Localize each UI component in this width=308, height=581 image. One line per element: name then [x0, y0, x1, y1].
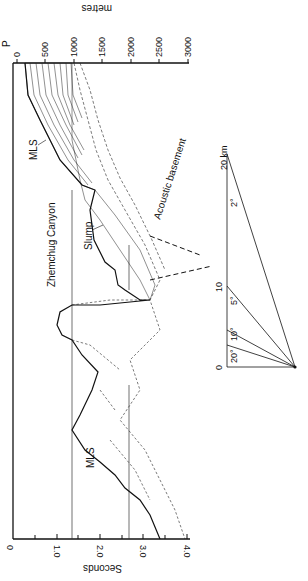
metres-axis-title: metres [81, 3, 112, 14]
basement-chaotic-zone [74, 63, 165, 300]
svg-text:3.0: 3.0 [138, 545, 148, 558]
upper-slope-sediments [25, 63, 155, 300]
seconds-tick-labels: 0 1.0 2.0 3.0 4.0 [5, 545, 192, 558]
slump-label: Slump [83, 221, 94, 250]
svg-text:20 km: 20 km [219, 145, 229, 170]
svg-text:2°: 2° [229, 198, 239, 207]
metres-tick-labels: 0 500 1000 1500 2000 2500 3000 [12, 37, 193, 57]
svg-text:5°: 5° [229, 296, 239, 305]
strata-lines [30, 63, 92, 185]
canyon-label: Zhemchug Canyon [46, 203, 57, 288]
svg-text:10: 10 [214, 282, 224, 292]
svg-text:3000: 3000 [183, 37, 193, 57]
lower-slope-sediments [72, 300, 185, 539]
svg-text:0: 0 [5, 545, 15, 550]
mls-lower-label: MLS [85, 447, 96, 468]
svg-text:2500: 2500 [154, 37, 164, 57]
svg-text:1.0: 1.0 [52, 545, 62, 558]
basement-dashed-line-2 [150, 266, 212, 280]
svg-text:2000: 2000 [126, 37, 136, 57]
svg-text:2.0: 2.0 [95, 545, 105, 558]
svg-text:0: 0 [12, 52, 22, 57]
seconds-ticks [35, 534, 187, 539]
svg-text:20°: 20° [229, 349, 239, 363]
svg-text:0: 0 [214, 365, 224, 370]
seismic-profile-figure: 0 500 1000 1500 2000 2500 3000 metres P … [0, 0, 308, 581]
scale-apex-point [293, 365, 296, 368]
seconds-axis-title: Seconds [83, 563, 122, 574]
svg-text:10°: 10° [229, 327, 239, 341]
svg-text:500: 500 [40, 42, 50, 57]
mls-upper-leader [38, 140, 46, 145]
mls-upper-label: MLS [28, 139, 39, 160]
svg-text:4.0: 4.0 [182, 545, 192, 558]
svg-text:1000: 1000 [69, 37, 79, 57]
basement-label: Acoustic basement [151, 137, 188, 221]
profile-label: P [1, 40, 12, 47]
svg-text:1500: 1500 [97, 37, 107, 57]
